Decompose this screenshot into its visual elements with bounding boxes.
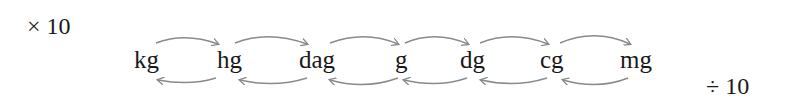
- forward-arrow-icon: [330, 37, 398, 44]
- forward-arrow-icon: [480, 37, 548, 44]
- forward-arrow-icon: [405, 37, 468, 44]
- conversion-arrows: [0, 0, 786, 102]
- backward-arrow-icon: [330, 78, 398, 85]
- backward-arrow-icon: [563, 78, 628, 85]
- forward-arrow-icon: [560, 36, 630, 44]
- forward-arrow-icon: [235, 37, 307, 44]
- backward-arrow-icon: [158, 78, 216, 83]
- forward-arrow-icon: [156, 38, 218, 44]
- backward-arrow-icon: [240, 78, 307, 84]
- backward-arrow-icon: [404, 78, 467, 84]
- backward-arrow-icon: [481, 78, 547, 84]
